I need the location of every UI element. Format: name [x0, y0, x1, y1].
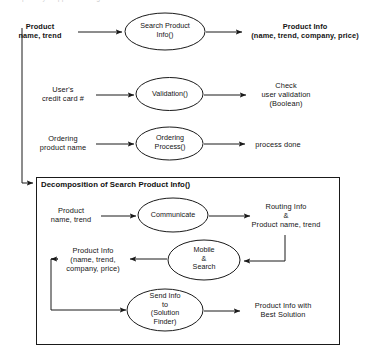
process-label-send-info-solution-finder: Send Info to (Solution Finder) — [135, 292, 195, 327]
output-label-product-info: Product Info (name, trend, company, pric… — [238, 22, 372, 40]
decomposition-box-title: Decomposition of Search Product Info() — [41, 180, 190, 189]
process-label-search-product-info: Search Product Info() — [125, 22, 205, 39]
decomp-output-label-best-solution: Product Info with Best Solution — [237, 301, 329, 319]
input-label-product-name-trend: Product name, trend — [8, 22, 72, 40]
input-label-ordering-product-name: Ordering product name — [30, 134, 96, 152]
output-label-check-user-validation: Check user validation (Boolean) — [243, 81, 329, 108]
decomp-label-product-info-detail: Product Info (name, trend, company, pric… — [57, 246, 129, 273]
input-label-credit-card: User's credit card # — [32, 85, 94, 103]
process-label-validation: Validation() — [140, 90, 200, 99]
process-label-mobile-search: Mobile & Search — [174, 246, 234, 272]
process-label-communicate: Communicate — [143, 211, 203, 220]
process-label-ordering: Ordering Process() — [140, 134, 200, 151]
decomp-output-label-routing-info: Routing Info & Product name, trend — [240, 202, 332, 229]
decomposition-link-line — [22, 28, 33, 183]
decomp-input-label-product-name-trend: Product name, trend — [40, 206, 102, 224]
diagram-canvas: partially cropped heading line — [0, 0, 373, 358]
routing-feedback-line — [244, 235, 285, 261]
output-label-process-done: process done — [247, 140, 309, 149]
